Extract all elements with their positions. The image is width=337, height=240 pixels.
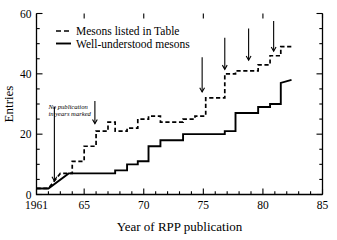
series-line-well-understood bbox=[37, 80, 292, 189]
x-tick-label: 85 bbox=[317, 199, 329, 211]
x-tick-label: 70 bbox=[138, 199, 150, 211]
note-line-1: No publication bbox=[47, 103, 88, 110]
x-axis-title: Year of RPP publication bbox=[117, 219, 243, 234]
y-tick-label: 40 bbox=[20, 68, 32, 80]
x-axis-tick-labels: 19616570758085 bbox=[25, 199, 329, 211]
right-axis-ticks bbox=[317, 14, 323, 195]
chart-figure: 196165707580850204060Year of RPP publica… bbox=[0, 0, 337, 240]
series-line-mesons-listed bbox=[37, 47, 292, 189]
x-tick-label: 65 bbox=[78, 199, 90, 211]
y-tick-label: 0 bbox=[26, 189, 32, 201]
legend-label-1: Well-understood mesons bbox=[76, 38, 190, 50]
x-tick-label: 75 bbox=[198, 199, 210, 211]
legend-label-0: Mesons listed in Table bbox=[76, 25, 179, 37]
y-axis-title: Entries bbox=[1, 86, 16, 123]
note-line-2: in years marked bbox=[48, 110, 91, 117]
y-tick-label: 60 bbox=[20, 8, 32, 20]
x-axis-ticks bbox=[37, 189, 323, 195]
chart-legend: Mesons listed in TableWell-understood me… bbox=[56, 25, 190, 50]
x-tick-label: 80 bbox=[257, 199, 269, 211]
top-axis-ticks bbox=[37, 14, 323, 19]
y-tick-label: 20 bbox=[20, 128, 32, 140]
y-axis-ticks bbox=[37, 14, 43, 195]
y-axis-tick-labels: 0204060 bbox=[20, 8, 32, 201]
no-publication-note: No publicationin years marked bbox=[47, 103, 91, 118]
entries-vs-year-chart: 196165707580850204060Year of RPP publica… bbox=[0, 0, 337, 240]
